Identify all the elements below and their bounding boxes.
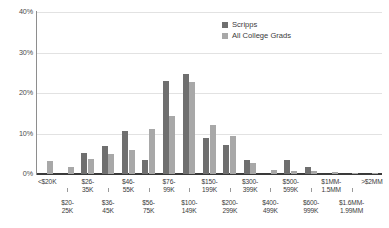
bar [311,171,317,174]
bar [129,150,135,174]
x-tick-label: $100- 149K [169,199,209,216]
y-tick-label-20pct: 20% [3,89,33,96]
bar-group [57,12,77,174]
bar [305,167,311,174]
bar [284,160,290,174]
bar [88,159,94,174]
bar [203,138,209,174]
bar [189,82,195,174]
bar [183,74,189,174]
bar [250,163,256,174]
legend-swatch-icon-scripps [222,22,228,28]
x-tick-label: $150- 199K [190,178,230,195]
x-tick-mark [352,188,353,192]
x-tick-label: $1.6MM- 1.99MM [332,199,372,216]
income-distribution-bar-chart: 0%10%20%30%40% Scripps All College Grads… [0,0,389,228]
y-tick-label-10pct: 10% [3,130,33,137]
legend-label-scripps: Scripps [232,20,257,31]
bar-group [98,12,118,174]
x-tick-label: $56- 75K [129,199,169,216]
bar [372,173,378,174]
x-tick-label: <$20K [27,178,67,186]
bar-group [199,12,219,174]
bar-group [78,12,98,174]
x-tick-label: $500- 599K [271,178,311,195]
legend-item-all-college-grads: All College Grads [222,31,291,42]
bar [291,171,297,174]
plot-area [37,12,382,174]
bar [244,160,250,174]
bar [223,145,229,174]
bar-group [179,12,199,174]
bar-group [37,12,57,174]
x-tick-label: $200- 299K [210,199,250,216]
bar [332,172,338,174]
y-tick-label-30pct: 30% [3,49,33,56]
chart-legend: Scripps All College Grads [222,20,291,41]
bar [149,129,155,174]
bar [108,154,114,174]
bar-group [138,12,158,174]
bar [210,125,216,174]
x-tick-label: $600- 999K [291,199,331,216]
bar [271,170,277,174]
bar-group [321,12,341,174]
x-tick-label: $20- 25K [47,199,87,216]
x-tick-label: $46- 55K [108,178,148,195]
bar [81,153,87,174]
y-tick-label-40pct: 40% [3,8,33,15]
x-tick-label: >$2MM [352,178,389,186]
bar [142,160,148,174]
bar [169,116,175,174]
bar [163,81,169,174]
bar [47,161,53,174]
x-tick-label: $400- 499K [250,199,290,216]
bar [68,167,74,174]
legend-label-all-college-grads: All College Grads [232,31,291,42]
x-axis-tick-labels: <$20K$20- 25K$26- 35K$36- 45K$46- 55K$56… [0,178,389,228]
x-tick-label: $76- 99K [149,178,189,195]
x-tick-label: $300- 399K [230,178,270,195]
bar [352,173,358,174]
bar-group [341,12,361,174]
x-tick-label: $36- 45K [88,199,128,216]
bar-group [118,12,138,174]
bar-group [362,12,382,174]
bar [102,146,108,174]
legend-item-scripps: Scripps [222,20,291,31]
y-tick-label-0pct: 0% [3,170,33,177]
bar-group [159,12,179,174]
legend-swatch-icon-all-college-grads [222,33,228,39]
bar-group [301,12,321,174]
bar [230,136,236,174]
x-tick-label: $26- 35K [68,178,108,195]
x-tick-label: $1MM- 1.5MM [311,178,351,195]
bar [122,131,128,174]
